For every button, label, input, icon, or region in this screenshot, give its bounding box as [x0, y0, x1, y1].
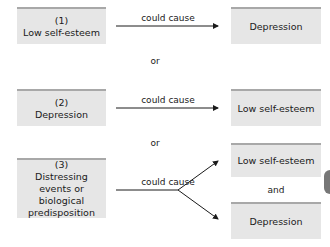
cause-label-1: Low self-esteem [23, 27, 100, 39]
relation-label-2: could cause [128, 95, 208, 105]
effect-box-3-top: Low self-esteem [231, 143, 321, 177]
cause-number-1: (1) [55, 15, 68, 27]
effect-label-1: Depression [249, 21, 302, 33]
effect-label-3-bottom: Depression [249, 216, 302, 228]
cause-label-2: Depression [35, 109, 88, 121]
separator-or-2: or [140, 138, 170, 148]
cause-number-3: (3) [55, 159, 68, 171]
cause-number-2: (2) [55, 97, 68, 109]
effect-label-2: Low self-esteem [238, 103, 315, 115]
cause-box-1: (1) Low self-esteem [17, 7, 106, 44]
cause-label-3: Distressing events or biological predisp… [22, 171, 102, 219]
cause-box-2: (2) Depression [17, 89, 106, 126]
page-edge-tab [324, 170, 330, 194]
effect-box-3-bottom: Depression [231, 202, 321, 239]
arrow-row3-bottom [178, 190, 218, 219]
effect-box-1: Depression [231, 7, 321, 44]
conjunction-and: and [261, 185, 291, 195]
effect-box-2: Low self-esteem [231, 89, 321, 126]
cause-box-3: (3) Distressing events or biological pre… [17, 158, 106, 218]
separator-or-1: or [140, 56, 170, 66]
relation-label-1: could cause [128, 13, 208, 23]
effect-label-3-top: Low self-esteem [238, 155, 315, 167]
relation-label-3: could cause [128, 177, 208, 187]
